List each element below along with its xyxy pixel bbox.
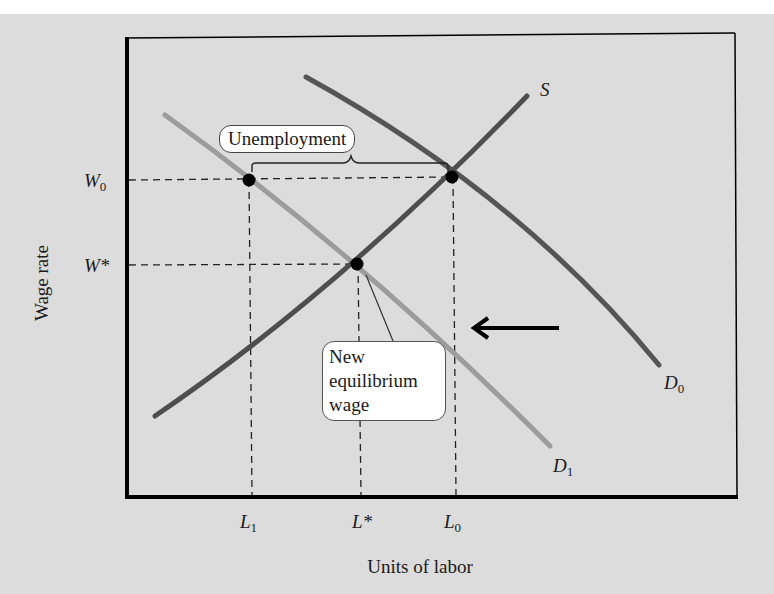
curve-label-d1-main: D xyxy=(553,455,567,476)
point-original-equilibrium xyxy=(446,171,459,184)
frame-top xyxy=(125,33,735,38)
y-tick-wstar-main: W* xyxy=(84,255,109,276)
frame-right xyxy=(735,33,737,497)
left-arrow-icon xyxy=(474,318,559,338)
x-tick-l1-sub: 1 xyxy=(251,520,258,535)
x-axis-label: Units of labor xyxy=(367,556,473,578)
x-tick-lstar-main: L* xyxy=(352,511,372,532)
dashed-guides xyxy=(129,177,456,495)
x-tick-lstar: L* xyxy=(352,512,372,531)
x-tick-l0-sub: 0 xyxy=(455,520,462,535)
callout-line-2: equilibrium xyxy=(329,369,445,393)
callout-line-3: wage xyxy=(329,393,445,417)
curve-label-s: S xyxy=(540,80,550,99)
labor-market-diagram xyxy=(0,0,774,594)
callout-line-1: New xyxy=(329,345,445,369)
y-tick-wstar: W* xyxy=(84,256,109,275)
unemployment-bracket xyxy=(252,156,448,172)
unemployment-label: Unemployment xyxy=(219,125,355,153)
x-tick-l0: L0 xyxy=(444,512,461,534)
point-w0-l1 xyxy=(243,174,256,187)
y-tick-w0-main: W xyxy=(84,170,100,191)
curve-label-d0: D0 xyxy=(664,373,684,395)
curve-label-d1: D1 xyxy=(553,456,573,478)
y-tick-w0-sub: 0 xyxy=(100,179,107,194)
y-tick-w0: W0 xyxy=(84,171,106,193)
y-axis-label: Wage rate xyxy=(31,245,53,321)
x-tick-l0-main: L xyxy=(444,511,455,532)
new-equilibrium-callout: New equilibrium wage xyxy=(322,341,446,421)
curve-label-d0-sub: 0 xyxy=(678,381,685,396)
x-tick-l1: L1 xyxy=(240,512,257,534)
point-new-equilibrium xyxy=(351,258,364,271)
curve-label-d0-main: D xyxy=(664,372,678,393)
curve-label-d1-sub: 1 xyxy=(567,464,574,479)
x-tick-l1-main: L xyxy=(240,511,251,532)
curve-label-s-main: S xyxy=(540,79,550,100)
